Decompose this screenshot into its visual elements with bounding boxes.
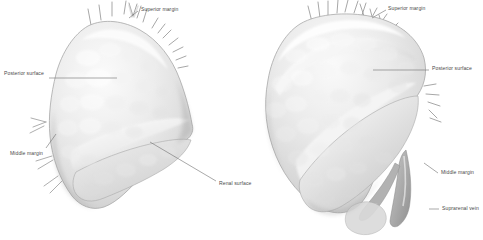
suprarenal-vein-trunk [390, 150, 411, 227]
right-lateral-vessel-stubs [424, 84, 441, 122]
label-left-posterior-surface: Posterior surface [4, 70, 44, 76]
label-right-posterior-surface: Posterior surface [432, 65, 472, 71]
right-gland-group [266, 0, 441, 235]
label-right-superior-margin: Superior margin [388, 5, 425, 11]
label-right-middle-margin: Middle margin [441, 169, 474, 175]
anatomical-figure: Superior margin Posterior surface Middle… [0, 0, 483, 240]
label-left-superior-margin: Superior margin [141, 6, 178, 12]
left-gland-group [30, 1, 216, 208]
illustration-canvas [0, 0, 483, 240]
leader-right-middle-margin [424, 163, 438, 173]
label-right-suprarenal-vein: Suprarenal vein [442, 205, 479, 211]
label-left-middle-margin: Middle margin [10, 150, 43, 156]
label-left-renal-surface: Renal surface [219, 180, 251, 186]
